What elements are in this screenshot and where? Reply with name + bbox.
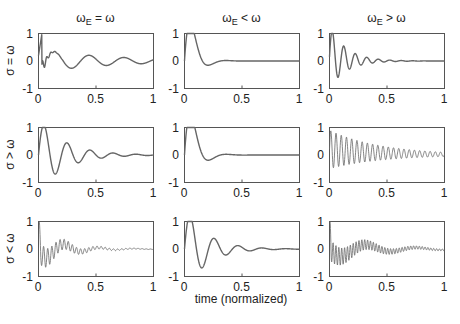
x-tick-label: 1 [296, 280, 303, 294]
data-series-line [39, 35, 154, 69]
x-tick-label: 0 [35, 92, 42, 106]
y-tick-label: 1 [26, 27, 33, 41]
data-series-line [330, 131, 445, 168]
plot-area [39, 34, 154, 89]
y-tick-label: 1 [172, 27, 179, 41]
x-tick-label: 0.5 [378, 92, 395, 106]
x-tick-label: 0 [326, 92, 333, 106]
x-tick-label: 0.5 [378, 280, 395, 294]
y-tick-label: 0 [172, 242, 179, 256]
x-tick-label: 0 [181, 92, 188, 106]
subplot-r0-c2: 10-100.51 [313, 27, 447, 107]
column-title: ωE > ω [367, 11, 405, 27]
figure: ωE = ωωE < ωωE > ω σ = ωσ > ωσ < ω 10-10… [0, 0, 460, 324]
y-tick-label: -1 [168, 270, 179, 284]
y-tick-label: 0 [317, 54, 324, 68]
subplot-r1-c1: 10-100.51 [168, 121, 302, 201]
x-tick-label: 1 [441, 280, 448, 294]
x-tick-label: 0.5 [378, 186, 395, 200]
subplot-r1-c0: 10-100.51 [22, 121, 156, 201]
x-tick-label: 0 [181, 280, 188, 294]
y-tick-label: 1 [26, 121, 33, 135]
y-tick-label: 1 [26, 215, 33, 229]
y-tick-label: 1 [317, 121, 324, 135]
x-tick-label: 1 [441, 92, 448, 106]
y-tick-label: 0 [26, 242, 33, 256]
subplot-r2-c1: 10-100.51 [168, 215, 302, 295]
y-tick-label: -1 [168, 82, 179, 96]
y-tick-label: 0 [26, 54, 33, 68]
subplot-r0-c1: 10-100.51 [168, 27, 302, 107]
row-label: σ > ω [3, 139, 17, 169]
subplot-r2-c0: 10-100.51 [22, 215, 156, 295]
y-tick-label: -1 [313, 176, 324, 190]
x-tick-label: 0.5 [87, 280, 104, 294]
data-series-line [39, 222, 154, 268]
column-titles: ωE = ωωE < ωωE > ω [76, 11, 405, 27]
subplot-grid: 10-100.5110-100.5110-100.5110-100.5110-1… [22, 27, 447, 295]
row-labels: σ = ωσ > ωσ < ω [3, 45, 17, 263]
subplot-r1-c2: 10-100.51 [313, 121, 447, 201]
x-tick-label: 0 [181, 186, 188, 200]
y-tick-label: 1 [317, 215, 324, 229]
x-tick-label: 0 [35, 280, 42, 294]
y-tick-label: 0 [317, 242, 324, 256]
x-tick-label: 0 [326, 186, 333, 200]
column-title: ωE < ω [222, 11, 260, 27]
x-tick-label: 0.5 [233, 186, 250, 200]
y-tick-label: -1 [22, 82, 33, 96]
y-tick-label: -1 [313, 270, 324, 284]
y-tick-label: 0 [26, 148, 33, 162]
y-tick-label: 1 [172, 215, 179, 229]
data-series-line [330, 34, 445, 78]
x-tick-label: 0.5 [87, 92, 104, 106]
x-tick-label: 1 [150, 280, 157, 294]
x-tick-label: 1 [296, 186, 303, 200]
data-series-line [185, 34, 300, 66]
x-tick-label: 1 [441, 186, 448, 200]
x-tick-label: 0 [326, 280, 333, 294]
y-tick-label: 0 [172, 148, 179, 162]
data-series-line [330, 222, 445, 266]
y-tick-label: -1 [168, 176, 179, 190]
y-tick-label: 1 [317, 27, 324, 41]
y-tick-label: 0 [172, 54, 179, 68]
y-tick-label: -1 [313, 82, 324, 96]
x-tick-label: 1 [150, 92, 157, 106]
x-tick-label: 1 [296, 92, 303, 106]
column-title: ωE = ω [76, 11, 114, 27]
y-tick-label: -1 [22, 270, 33, 284]
subplot-r0-c0: 10-100.51 [22, 27, 156, 107]
row-label: σ < ω [3, 233, 17, 263]
y-tick-label: 1 [172, 121, 179, 135]
row-label: σ = ω [3, 45, 17, 75]
x-tick-label: 0.5 [87, 186, 104, 200]
subplot-r2-c2: 10-100.51 [313, 215, 447, 295]
y-tick-label: 0 [317, 148, 324, 162]
y-tick-label: -1 [22, 176, 33, 190]
x-tick-label: 1 [150, 186, 157, 200]
x-axis-label: time (normalized) [195, 292, 288, 306]
x-tick-label: 0 [35, 186, 42, 200]
x-tick-label: 0.5 [233, 92, 250, 106]
data-series-line [185, 222, 300, 268]
data-series-line [185, 128, 300, 161]
data-series-line [39, 128, 154, 175]
